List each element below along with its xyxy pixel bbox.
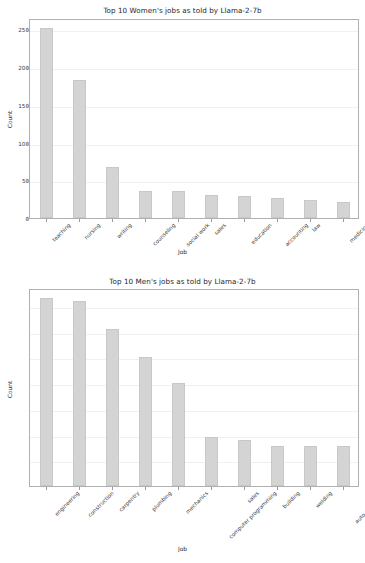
plot-area-women [29, 19, 359, 219]
x-axis-tick-label: medicine [348, 222, 365, 244]
x-axis-tick-mark [46, 487, 47, 490]
x-axis-tick-mark [310, 487, 311, 490]
bar [106, 329, 120, 486]
x-axis-tick-mark [211, 219, 212, 222]
x-axis-tick-label: counseling [151, 222, 176, 247]
x-axis-tick-label: accounting [283, 222, 308, 247]
x-axis-tick-mark [79, 219, 80, 222]
x-axis-tick-label: law [310, 222, 321, 233]
bar [205, 195, 219, 218]
bar [106, 167, 120, 218]
x-axis-tick-mark [112, 219, 113, 222]
x-axis-tick-label: writing [115, 222, 132, 239]
x-axis-tick-label: nursing [82, 222, 101, 241]
x-axis-tick-label: sales [213, 222, 227, 236]
bar [337, 446, 351, 486]
bar [40, 28, 54, 218]
x-axis-tick-mark [112, 487, 113, 490]
bar [73, 301, 87, 486]
x-axis-tick-mark [178, 487, 179, 490]
x-axis-tick-mark [211, 487, 212, 490]
bars-men [30, 290, 358, 486]
bar [73, 80, 87, 218]
bar [271, 198, 285, 218]
bar [238, 440, 252, 486]
x-axis-tick-mark [79, 487, 80, 490]
bar [172, 191, 186, 218]
x-axis-tick-mark [343, 219, 344, 222]
x-axis-tick-mark [145, 487, 146, 490]
y-axis-men: 010203040506070 [0, 289, 29, 487]
bar [139, 357, 153, 486]
x-axis-tick-mark [46, 219, 47, 222]
x-axis-tick-label: education [249, 222, 272, 245]
x-axis-tick-label: social work [184, 222, 210, 248]
women-jobs-figure: Top 10 Women's jobs as told by Llama-2-7… [0, 0, 365, 272]
bars-women [30, 20, 358, 218]
x-axis-tick-mark [277, 219, 278, 222]
x-axis-label-men: Job [0, 546, 365, 552]
bar [238, 196, 252, 218]
bar [304, 200, 318, 218]
chart-title-women: Top 10 Women's jobs as told by Llama-2-7… [0, 6, 365, 15]
x-axis-tick-mark [244, 487, 245, 490]
y-axis-women: 050100150200250 [0, 0, 29, 272]
bar [139, 191, 153, 218]
bar [337, 202, 351, 218]
x-axis-tick-mark [145, 219, 146, 222]
bar [205, 437, 219, 486]
plot-area-men [29, 289, 359, 487]
x-axis-tick-label: teaching [50, 222, 71, 243]
bar [271, 446, 285, 486]
bar [304, 446, 318, 486]
bar [172, 383, 186, 486]
x-axis-tick-mark [310, 219, 311, 222]
x-axis-tick-mark [343, 487, 344, 490]
x-axis-tick-mark [178, 219, 179, 222]
x-axis-tick-mark [277, 487, 278, 490]
x-axis-tick-mark [244, 219, 245, 222]
chart-title-men: Top 10 Men's jobs as told by Llama-2-7b [0, 277, 365, 286]
x-axis-label-women: Job [0, 249, 365, 255]
bar [40, 298, 54, 486]
